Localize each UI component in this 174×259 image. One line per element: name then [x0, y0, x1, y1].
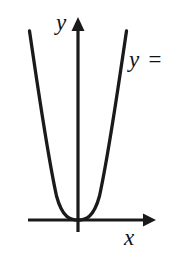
figure-canvas — [0, 0, 174, 259]
arrow-right-icon — [143, 214, 156, 227]
x-axis-label: x — [124, 226, 134, 249]
y-axis-label: y — [56, 11, 66, 34]
parabola-figure: y x y = — [0, 0, 174, 259]
equation-label: y = — [129, 48, 163, 71]
arrow-up-icon — [72, 17, 85, 31]
